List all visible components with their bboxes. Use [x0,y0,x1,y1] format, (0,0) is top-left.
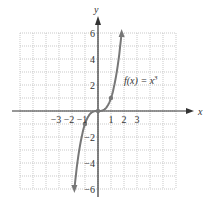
curve-point [96,109,100,113]
y-tick-label: −6 [84,184,95,195]
curve-point [109,96,113,100]
x-tick-label: −1 [77,114,88,125]
y-axis-label: y [93,4,99,15]
x-tick-label: −2 [64,114,75,125]
y-tick-label: 2 [90,80,95,91]
cubic-function-graph: xy−3−2−1123642−2−4−6 f(x) = x3 [0,0,215,204]
function-label: f(x) = x3 [124,74,158,87]
y-tick-label: −2 [84,132,95,143]
x-tick-label: 1 [109,114,114,125]
axes [12,16,194,197]
y-tick-label: −4 [84,158,95,169]
x-axis-label: x [197,106,203,117]
y-tick-label: 4 [90,54,95,65]
x-tick-label: −3 [51,114,62,125]
y-tick-label: 6 [90,28,95,39]
x-tick-label: 2 [122,114,127,125]
x-axis-arrow-icon [186,108,194,114]
x-tick-label: 3 [135,114,140,125]
y-axis-arrow-icon [95,16,101,25]
